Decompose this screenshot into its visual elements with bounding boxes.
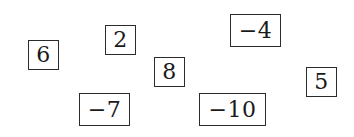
number-box-2: 2: [105, 25, 136, 55]
number-box-6: 6: [28, 40, 59, 70]
number-box-8: 8: [154, 57, 185, 87]
number-box-5: 5: [306, 67, 337, 97]
number-box-neg-10: −10: [199, 93, 266, 126]
number-box-diagram: 6 2 8 −4 −7 −10 5: [0, 0, 354, 137]
number-box-neg-4: −4: [230, 14, 281, 47]
number-box-neg-7: −7: [79, 93, 130, 126]
